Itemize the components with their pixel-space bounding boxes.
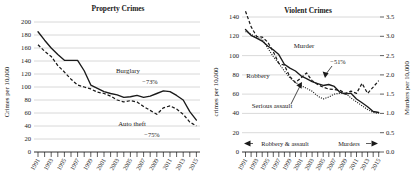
x-year-labels-property: 1991 1993 1995 1997 1999 2001 2003 2005 … [29, 157, 200, 171]
svg-text:3.0: 3.0 [386, 32, 395, 39]
chart-title-violent: Violent Crimes [284, 6, 332, 15]
y-right-tick-3-5: 3.5 [380, 13, 395, 20]
property-crimes-svg: Property Crimes Crimes per 10,000 200 18… [0, 0, 208, 187]
y-tick-100: 100 [21, 83, 32, 90]
y-tick-200: 200 [21, 18, 32, 25]
svg-text:Murders: Murders [338, 140, 360, 147]
y-left-tick-80: 80 [232, 71, 239, 78]
y-tick-60: 60 [24, 109, 31, 116]
x-label-v-2009: 2009 [336, 157, 348, 171]
x-ticks-property [38, 152, 196, 157]
series-line-murder [246, 11, 379, 93]
x-label-2009: 2009 [147, 157, 159, 171]
annotation-murder: Murder [294, 42, 315, 49]
y-axis-label-violent-left: crimes per 10,000 [212, 67, 219, 116]
svg-text:Robbery & assault: Robbery & assault [261, 140, 309, 147]
x-label-v-2007: 2007 [325, 157, 337, 171]
leader-arrow-murder-pct [323, 66, 332, 78]
figure-two-panel-crime-charts: Property Crimes Crimes per 10,000 200 18… [0, 0, 416, 187]
y-tick-120: 120 [21, 70, 32, 77]
y-right-tick-1-0: 1.0 [380, 109, 395, 116]
axis-span-robbery-assault: Robbery & assault [244, 140, 309, 147]
svg-text:2.0: 2.0 [386, 71, 395, 78]
annotation-serious-assault: Serious assault [252, 102, 293, 109]
x-label-2003: 2003 [108, 157, 120, 171]
x-label-1991: 1991 [29, 157, 41, 171]
y-tick-20: 20 [24, 135, 31, 142]
x-label-v-2003: 2003 [303, 157, 315, 171]
y-left-tick-20: 20 [232, 129, 239, 136]
y-tick-80: 80 [24, 96, 31, 103]
y-left-tick-140: 140 [229, 13, 240, 20]
x-label-2011: 2011 [161, 157, 173, 171]
y-right-tick-2-5: 2.5 [380, 52, 395, 59]
x-label-v-1999: 1999 [281, 157, 293, 171]
annotation-auto-theft: Auto theft [118, 120, 146, 127]
chart-panel-violent-crimes: Violent Crimes crimes per 10,000 Murders… [208, 0, 416, 187]
x-label-2013: 2013 [174, 157, 186, 171]
y-right-tick-2-0: 2.0 [380, 71, 395, 78]
x-label-2005: 2005 [121, 157, 133, 171]
y-left-tick-40: 40 [232, 109, 239, 116]
x-year-labels-violent: 1991 1993 1995 1997 1999 2001 2003 2005 … [236, 157, 381, 171]
y-axis-label-property: Crimes per 10,000 [3, 66, 10, 117]
y-left-tick-0: 0 [236, 148, 240, 155]
y-tick-labels-violent-right: 3.5 3.0 2.5 2.0 1.5 [380, 13, 395, 155]
gridlines-property [34, 22, 200, 139]
annotation-robbery: Robbery [246, 72, 270, 79]
x-label-v-2001: 2001 [292, 157, 304, 171]
svg-text:0.5: 0.5 [386, 129, 395, 136]
x-label-v-1997: 1997 [269, 157, 281, 171]
x-label-2015: 2015 [187, 157, 199, 171]
series-line-auto-theft [38, 45, 196, 126]
y-tick-labels-property: 200 180 160 140 120 100 80 60 40 20 0 [21, 18, 32, 155]
y-tick-labels-violent-left: 140 120 100 80 60 40 20 0 [229, 13, 240, 155]
y-right-tick-0-0: 0.0 [380, 148, 395, 155]
x-label-1995: 1995 [55, 157, 67, 171]
annotation-auto-theft-pct: −75% [144, 131, 160, 138]
svg-text:1.5: 1.5 [386, 90, 395, 97]
violent-crimes-svg: Violent Crimes crimes per 10,000 Murders… [208, 0, 416, 187]
annotation-burglary-pct: −73% [142, 78, 158, 85]
y-tick-140: 140 [21, 57, 32, 64]
svg-text:3.5: 3.5 [386, 13, 395, 20]
axis-span-murders: Murders [338, 140, 378, 147]
x-ticks-violent [246, 152, 379, 157]
y-tick-0: 0 [28, 148, 32, 155]
chart-title-property: Property Crimes [91, 4, 144, 13]
x-label-v-1993: 1993 [247, 157, 259, 171]
annotation-murder-pct: −51% [330, 58, 346, 65]
x-label-1993: 1993 [42, 157, 54, 171]
y-axis-label-violent-right: Murders per 10,000 [403, 61, 410, 115]
x-label-1997: 1997 [68, 157, 80, 171]
y-right-tick-0-5: 0.5 [380, 129, 395, 136]
y-left-tick-120: 120 [229, 32, 240, 39]
chart-panel-property-crimes: Property Crimes Crimes per 10,000 200 18… [0, 0, 208, 187]
y-left-tick-100: 100 [229, 52, 240, 59]
x-label-v-1995: 1995 [258, 157, 270, 171]
x-label-v-2015: 2015 [369, 157, 381, 171]
x-label-v-2013: 2013 [358, 157, 370, 171]
y-left-tick-60: 60 [232, 90, 239, 97]
annotation-burglary: Burglary [116, 67, 141, 74]
y-tick-40: 40 [24, 122, 31, 129]
y-tick-160: 160 [21, 44, 32, 51]
svg-text:2.5: 2.5 [386, 52, 395, 59]
x-label-2007: 2007 [134, 157, 146, 171]
svg-text:1.0: 1.0 [386, 109, 395, 116]
x-label-v-1991: 1991 [236, 157, 248, 171]
x-label-v-2011: 2011 [347, 157, 359, 171]
x-label-2001: 2001 [95, 157, 107, 171]
x-label-1999: 1999 [81, 157, 93, 171]
x-label-v-2005: 2005 [314, 157, 326, 171]
y-right-tick-3-0: 3.0 [380, 32, 395, 39]
y-right-tick-1-5: 1.5 [380, 90, 395, 97]
svg-text:0.0: 0.0 [386, 148, 395, 155]
y-tick-180: 180 [21, 31, 32, 38]
leader-arrow-serious-assault [291, 82, 302, 104]
